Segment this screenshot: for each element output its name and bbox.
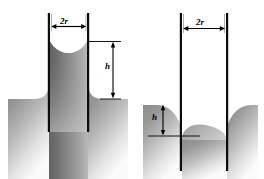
capillary-depression-panel xyxy=(143,13,258,179)
left-column-fade xyxy=(50,60,87,132)
right-diameter-label: 2r xyxy=(196,18,204,27)
capillary-figure: 2r h 2r h xyxy=(0,0,264,179)
right-tube-wall-right xyxy=(226,13,228,171)
capillary-diagram-svg xyxy=(0,0,264,179)
left-height-arrowhead-bottom xyxy=(111,93,115,99)
right-reservoir-liquid-right xyxy=(227,105,258,179)
right-tube-wall-left xyxy=(180,13,182,171)
left-tube-wall-left xyxy=(48,13,50,132)
right-liquid-body xyxy=(182,140,226,179)
left-diameter-label: 2r xyxy=(60,17,68,26)
left-reservoir-liquid xyxy=(8,85,49,179)
left-tube-wall-right xyxy=(87,13,89,132)
right-reservoir-liquid-left xyxy=(143,105,181,179)
right-diameter-dimension xyxy=(183,14,225,33)
right-height-label: h xyxy=(152,113,157,122)
left-height-arrowhead-top xyxy=(111,42,115,48)
left-height-label: h xyxy=(105,62,110,71)
capillary-rise-panel xyxy=(8,13,128,179)
